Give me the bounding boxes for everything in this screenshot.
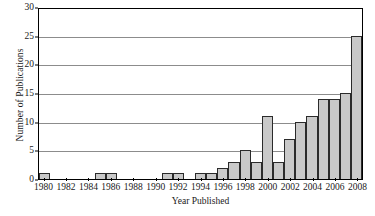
bar-slot (273, 9, 284, 179)
x-tick-mark (313, 178, 314, 181)
bar (273, 162, 284, 179)
x-tick-mark (223, 178, 224, 181)
bar (340, 93, 351, 179)
x-tick-mark (268, 178, 269, 181)
bar-slot (295, 9, 306, 179)
x-tick-mark (335, 178, 336, 181)
bar-slot (340, 9, 351, 179)
x-tick-label: 1992 (169, 181, 188, 193)
bar-slot (39, 9, 50, 179)
x-tick-label: 2002 (281, 181, 300, 193)
x-tick-mark (66, 178, 67, 181)
x-tick-mark (44, 178, 45, 181)
y-tick-label: 30 (16, 3, 34, 13)
x-tick-mark (178, 178, 179, 181)
bar-slot (117, 9, 128, 179)
bar-slot (106, 9, 117, 179)
x-tick-mark (111, 178, 112, 181)
bar (240, 150, 251, 179)
plot-area (38, 8, 363, 180)
x-tick-mark (201, 178, 202, 181)
x-tick-mark (133, 178, 134, 181)
y-tick-label: 10 (16, 118, 34, 128)
y-tick-label: 15 (16, 89, 34, 99)
bar (284, 139, 295, 179)
bar-slot (228, 9, 239, 179)
bar (206, 173, 217, 179)
bar-slot (72, 9, 83, 179)
bar (318, 99, 329, 179)
x-axis-title: Year Published (38, 195, 363, 207)
bar-slot (95, 9, 106, 179)
x-tick-label: 1998 (236, 181, 255, 193)
bar-slot (50, 9, 61, 179)
bar-slot (150, 9, 161, 179)
bar (306, 116, 317, 179)
bar-slot (128, 9, 139, 179)
bar (295, 122, 306, 179)
bar-slot (306, 9, 317, 179)
bar-slot (173, 9, 184, 179)
bar-slot (284, 9, 295, 179)
x-tick-label: 1988 (124, 181, 143, 193)
y-tick-label: 25 (16, 32, 34, 42)
bar-slot (184, 9, 195, 179)
x-tick-mark (245, 178, 246, 181)
bar (262, 116, 273, 179)
x-tick-label: 1982 (57, 181, 76, 193)
bar-slot (240, 9, 251, 179)
bar-slot (251, 9, 262, 179)
x-axis-tick-labels: 1980198219841986198819901992199419961998… (38, 181, 363, 195)
bar (251, 162, 262, 179)
bar-slot (195, 9, 206, 179)
bar-slot (262, 9, 273, 179)
publications-bar-chart: Number of Publications 051015202530 1980… (0, 0, 375, 216)
bar (162, 173, 173, 179)
y-tick-label: 20 (16, 61, 34, 71)
x-tick-label: 2006 (325, 181, 344, 193)
x-tick-label: 1984 (79, 181, 98, 193)
x-tick-mark (357, 178, 358, 181)
bar (351, 36, 362, 179)
y-tick-label: 0 (16, 175, 34, 185)
bar (329, 99, 340, 179)
bar-slot (351, 9, 362, 179)
bar-slot (206, 9, 217, 179)
x-tick-label: 1996 (213, 181, 232, 193)
x-tick-label: 1986 (101, 181, 120, 193)
bar (228, 162, 239, 179)
x-tick-label: 2000 (258, 181, 277, 193)
bar-slot (139, 9, 150, 179)
x-tick-mark (156, 178, 157, 181)
x-tick-label: 1990 (146, 181, 165, 193)
bar-slot (329, 9, 340, 179)
x-tick-mark (88, 178, 89, 181)
x-tick-label: 2008 (348, 181, 367, 193)
bar (95, 173, 106, 179)
x-tick-label: 1980 (34, 181, 53, 193)
x-tick-label: 2004 (303, 181, 322, 193)
y-axis-tick-labels: 051015202530 (16, 8, 34, 180)
bar-slot (217, 9, 228, 179)
bar-slot (162, 9, 173, 179)
x-tick-mark (290, 178, 291, 181)
y-tick-label: 5 (16, 147, 34, 157)
bar-slot (318, 9, 329, 179)
bar-series (39, 9, 362, 179)
bar-slot (84, 9, 95, 179)
x-tick-label: 1994 (191, 181, 210, 193)
bar-slot (61, 9, 72, 179)
